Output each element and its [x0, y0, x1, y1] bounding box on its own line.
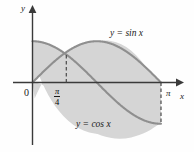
quarter-pi-numerator: π [54, 87, 60, 96]
quarter-pi-tick-label: π 4 [54, 87, 60, 107]
sin-cos-area-figure: y x 0 y = sin x y = cos x π π 4 [0, 0, 194, 152]
x-axis-arrowhead [176, 79, 184, 87]
origin-label: 0 [24, 88, 29, 98]
pi-tick-label: π [166, 89, 171, 98]
cos-curve-label: y = cos x [76, 120, 111, 130]
x-axis-label: x [180, 92, 184, 101]
sin-curve-label: y = sin x [110, 29, 143, 39]
quarter-pi-denominator: 4 [54, 98, 60, 107]
y-axis-label: y [21, 4, 25, 13]
y-axis-arrowhead [29, 5, 37, 13]
